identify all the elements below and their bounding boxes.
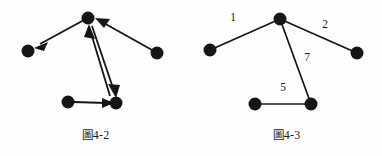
edge-top-to-left <box>34 20 84 51</box>
figure-caption-4-3-number: 4-3 <box>284 128 301 142</box>
arrow-head-to-top-from-right <box>95 18 110 28</box>
edge-left-top <box>210 19 280 50</box>
edge-right-to-top <box>95 18 152 50</box>
edge-top-to-bottomright <box>92 26 120 98</box>
figure-caption-4-2-number: 4-2 <box>93 128 110 142</box>
node-bottom-right <box>110 97 123 110</box>
edge-line-top-bottomright <box>92 26 113 88</box>
figure-panel-4-2: 圖4-2 <box>0 0 191 156</box>
node-right <box>351 47 364 60</box>
node-right <box>151 47 164 60</box>
figure-caption-4-3-cjk: 圖 <box>273 128 284 142</box>
directed-graph-diagram <box>0 0 191 125</box>
weighted-graph-diagram: 1 2 7 5 <box>191 0 382 125</box>
figure-caption-4-2-cjk: 圖 <box>82 128 93 142</box>
edge-top-right <box>280 19 357 53</box>
node-top <box>82 12 95 25</box>
edge-weight-label-7: 7 <box>304 51 310 63</box>
edge-line-bottomright-top <box>91 33 110 96</box>
node-bottom-left <box>62 96 75 109</box>
edge-bottomright-to-top <box>84 24 110 96</box>
figure-panel-4-3: 1 2 7 5 圖4-3 <box>191 0 382 156</box>
edge-line-bottomleft-bottomright <box>74 102 106 103</box>
edge-weight-label-5: 5 <box>280 81 286 93</box>
figure-board: 圖4-2 1 2 7 5 圖4-3 <box>0 0 382 156</box>
edge-weight-label-2: 2 <box>322 18 328 30</box>
edge-weight-label-1: 1 <box>230 11 236 23</box>
edge-line-top-left <box>40 20 84 44</box>
edge-line-right-top <box>102 22 152 50</box>
node-left <box>204 44 217 57</box>
figure-caption-4-3: 圖4-3 <box>191 126 382 143</box>
node-left <box>22 45 35 58</box>
node-bottom-left <box>249 98 262 111</box>
node-bottom-right <box>305 98 318 111</box>
node-top <box>274 13 287 26</box>
figure-caption-4-2: 圖4-2 <box>0 126 191 143</box>
edge-bottomleft-to-bottomright <box>74 98 114 108</box>
